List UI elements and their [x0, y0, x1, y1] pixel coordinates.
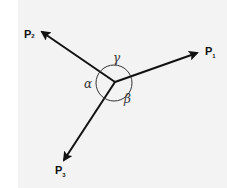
angle-alpha: α: [84, 77, 92, 91]
angle-gamma: γ: [113, 51, 121, 65]
vector-p2: [42, 32, 115, 82]
label-p1: P1: [205, 45, 216, 59]
label-p2: P2: [24, 28, 35, 40]
label-p3: P3: [55, 164, 66, 178]
vector-p1: [115, 53, 197, 82]
angle-beta: β: [123, 92, 131, 106]
vector-diagram: P1 P2 P3 α β γ: [0, 0, 227, 188]
vector-p3: [64, 82, 115, 160]
